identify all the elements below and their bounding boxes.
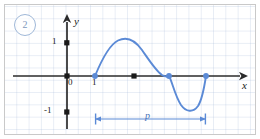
x-tick-label-one: 1 xyxy=(92,77,97,87)
y-tick-label-one: 1 xyxy=(52,36,57,46)
figure-index-badge: 2 xyxy=(14,14,36,36)
tick-dot-y-one xyxy=(64,40,69,45)
curve-point-mid xyxy=(166,73,172,79)
x-axis-label: x xyxy=(242,79,247,91)
y-axis-label: y xyxy=(74,15,79,27)
plot-canvas xyxy=(4,4,256,135)
figure-container: 2 y x 1 -1 0 1 p xyxy=(0,0,260,139)
periodic-curve xyxy=(95,39,206,111)
curve-point-end xyxy=(203,73,209,79)
tick-dot-x-mid xyxy=(131,73,136,78)
tick-dot-y-minus-one xyxy=(64,109,69,114)
period-label: p xyxy=(145,110,150,121)
origin-label: 0 xyxy=(68,77,73,87)
figure-card: 2 xyxy=(4,4,256,135)
y-tick-label-minus-one: -1 xyxy=(44,105,52,115)
